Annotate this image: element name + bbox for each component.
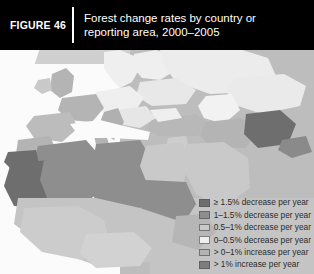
legend-swatch-1: [199, 211, 210, 219]
legend-item-0-5-to-1-decrease[interactable]: 0.5–1% decrease per year: [199, 221, 311, 233]
map-canvas: ≥ 1.5% decrease per year 1–1.5% decrease…: [0, 48, 314, 274]
figure-title-line-1: Forest change rates by country or: [84, 11, 314, 25]
map-legend: ≥ 1.5% decrease per year 1–1.5% decrease…: [199, 197, 311, 271]
figure-title-line-2: reporting area, 2000–2005: [84, 25, 314, 39]
legend-item-0-to-0-5-decrease[interactable]: 0–0.5% decrease per year: [199, 234, 311, 246]
legend-label-4: > 0–1% increase per year: [214, 248, 309, 257]
legend-label-5: > 1% increase per year: [214, 260, 300, 269]
legend-swatch-4: [199, 249, 210, 257]
legend-item-0-to-1-increase[interactable]: > 0–1% increase per year: [199, 246, 311, 258]
figure-number-label: FIGURE 46: [0, 0, 72, 50]
figure-title: Forest change rates by country or report…: [74, 0, 314, 50]
legend-swatch-0: [199, 199, 210, 207]
legend-swatch-2: [199, 224, 210, 232]
region-egypt: [140, 142, 190, 186]
legend-item-1-to-1-5-decrease[interactable]: 1–1.5% decrease per year: [199, 209, 311, 221]
legend-swatch-5: [199, 261, 210, 269]
legend-label-2: 0.5–1% decrease per year: [214, 223, 311, 232]
legend-item-gt-1-increase[interactable]: > 1% increase per year: [199, 259, 311, 271]
legend-label-1: 1–1.5% decrease per year: [214, 211, 311, 220]
figure-header: FIGURE 46 Forest change rates by country…: [0, 0, 314, 50]
legend-item-ge-1-5-decrease[interactable]: ≥ 1.5% decrease per year: [199, 197, 311, 209]
figure-panel: FIGURE 46 Forest change rates by country…: [0, 0, 314, 274]
legend-label-3: 0–0.5% decrease per year: [214, 236, 311, 245]
legend-label-0: ≥ 1.5% decrease per year: [214, 198, 309, 207]
legend-swatch-3: [199, 236, 210, 244]
